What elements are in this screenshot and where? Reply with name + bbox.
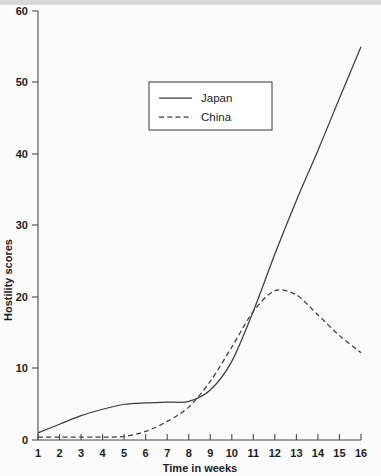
x-axis-tick-labels: 12345678910111213141516 — [35, 447, 367, 459]
series-line-china — [38, 290, 361, 437]
x-tick-label: 9 — [207, 447, 213, 459]
x-tick-label: 2 — [56, 447, 62, 459]
y-axis-ticks — [32, 11, 38, 440]
x-axis-title: Time in weeks — [163, 462, 237, 474]
line-chart: 60 50 40 30 20 10 0 12345678910111213141… — [0, 0, 381, 476]
x-tick-label: 14 — [312, 447, 325, 459]
y-tick-label: 30 — [16, 219, 28, 231]
x-tick-label: 6 — [143, 447, 149, 459]
y-axis-tick-labels: 60 50 40 30 20 10 0 — [16, 5, 28, 446]
x-tick-label: 10 — [226, 447, 238, 459]
y-tick-label: 20 — [16, 291, 28, 303]
legend: Japan China — [149, 82, 272, 130]
y-tick-label: 10 — [16, 362, 28, 374]
legend-label-japan: Japan — [201, 92, 232, 104]
x-tick-label: 11 — [248, 447, 260, 459]
y-axis-title: Hostility scores — [2, 239, 14, 321]
x-axis-ticks — [38, 434, 361, 440]
x-tick-label: 3 — [78, 447, 84, 459]
y-tick-label: 0 — [22, 434, 28, 446]
x-tick-label: 8 — [186, 447, 192, 459]
y-tick-label: 40 — [16, 148, 28, 160]
x-tick-label: 13 — [290, 447, 302, 459]
x-tick-label: 5 — [121, 447, 127, 459]
x-tick-label: 12 — [269, 447, 281, 459]
x-tick-label: 16 — [355, 447, 367, 459]
y-tick-label: 60 — [16, 5, 28, 17]
chart-svg: 60 50 40 30 20 10 0 12345678910111213141… — [0, 0, 381, 476]
y-tick-label: 50 — [16, 76, 28, 88]
x-tick-label: 15 — [333, 447, 345, 459]
legend-label-china: China — [201, 111, 232, 123]
x-tick-label: 7 — [164, 447, 170, 459]
x-tick-label: 1 — [35, 447, 41, 459]
x-tick-label: 4 — [100, 447, 107, 459]
